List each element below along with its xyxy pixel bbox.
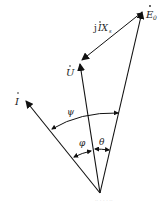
svg-text:0: 0 bbox=[153, 14, 157, 21]
label-psi: ψ bbox=[67, 107, 75, 117]
svg-text:j: j bbox=[93, 23, 97, 33]
label-theta: θ bbox=[99, 137, 105, 147]
phasor-diagram: E 0 j IX s U I ψ φ θ ·· · · · ·· bbox=[0, 0, 165, 205]
label-jixs: j IX s bbox=[93, 21, 112, 34]
phasor-e0 bbox=[100, 12, 142, 193]
svg-text:U: U bbox=[66, 67, 75, 78]
svg-text:IX: IX bbox=[97, 23, 109, 33]
label-i: I bbox=[14, 92, 20, 107]
watermark: ·· · · · ·· bbox=[95, 197, 113, 203]
svg-text:s: s bbox=[109, 28, 112, 34]
angle-theta-arc bbox=[95, 149, 109, 150]
angle-phi-arc bbox=[74, 151, 91, 157]
label-u: U bbox=[66, 65, 75, 78]
label-e0: E 0 bbox=[145, 5, 157, 21]
phasor-u bbox=[80, 64, 100, 193]
angle-psi-arc bbox=[52, 113, 118, 129]
label-phi: φ bbox=[79, 138, 86, 148]
svg-text:I: I bbox=[14, 96, 20, 107]
